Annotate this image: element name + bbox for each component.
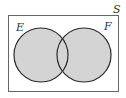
set-e-label: E [15,21,24,34]
universe-label: S [113,3,121,16]
venn-diagram: S E F [0,0,126,98]
set-f-label: F [103,20,112,33]
